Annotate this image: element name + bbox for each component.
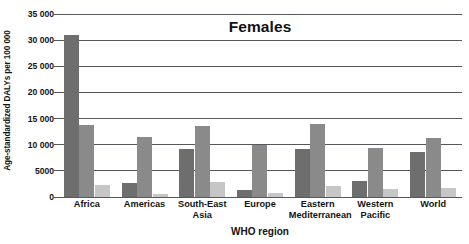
x-tick-label-line: Eastern xyxy=(289,199,347,210)
bar xyxy=(295,149,310,197)
chart-container: Age-standardized DALYs per 100 000 05000… xyxy=(0,0,469,244)
y-tick-label-25000: 25 000 xyxy=(28,61,54,71)
bar-group xyxy=(289,14,347,197)
bar xyxy=(195,126,210,197)
bar xyxy=(368,148,383,197)
bar xyxy=(137,137,152,197)
y-tick-label-0: 0 xyxy=(49,192,54,202)
y-tick-label-20000: 20 000 xyxy=(28,87,54,97)
y-axis-title-text: Age-standardized DALYs per 100 000 xyxy=(3,30,12,171)
x-tick-label-line: Western xyxy=(347,199,405,210)
bar-group xyxy=(404,14,462,197)
bar xyxy=(179,149,194,197)
bar xyxy=(210,182,225,197)
bar xyxy=(95,185,110,197)
bar xyxy=(79,125,94,197)
x-tick-label: South-EastAsia xyxy=(173,199,231,220)
x-tick-label: Africa xyxy=(58,199,116,210)
y-axis-title: Age-standardized DALYs per 100 000 xyxy=(0,0,14,200)
y-tick-label-15000: 15 000 xyxy=(28,114,54,124)
x-tick-label: WesternPacific xyxy=(347,199,405,220)
x-tick-label-line: Asia xyxy=(173,210,231,221)
bar xyxy=(252,145,267,197)
bar xyxy=(237,190,252,197)
x-tick-label-line: South-East xyxy=(173,199,231,210)
x-tick-label: Europe xyxy=(231,199,289,210)
bar-group xyxy=(58,14,116,197)
y-tick-label-30000: 30 000 xyxy=(28,35,54,45)
bar-group xyxy=(231,14,289,197)
x-tick-label: World xyxy=(404,199,462,210)
y-tick-label-5000: 5000 xyxy=(35,166,54,176)
bar xyxy=(410,152,425,197)
x-tick-label: Americas xyxy=(116,199,174,210)
bar-group xyxy=(347,14,405,197)
bar xyxy=(426,138,441,197)
bar-group xyxy=(116,14,174,197)
x-axis-title: WHO region xyxy=(58,226,462,237)
y-tick-label-10000: 10 000 xyxy=(28,140,54,150)
x-tick-label-line: World xyxy=(404,199,462,210)
x-tick-label-line: Europe xyxy=(231,199,289,210)
bar xyxy=(383,189,398,197)
bar xyxy=(64,35,79,197)
bars-layer xyxy=(58,14,462,197)
bar xyxy=(310,124,325,197)
bar xyxy=(153,194,168,197)
x-tick-label-line: Mediterranean xyxy=(289,210,347,221)
y-tick-label-35000: 35 000 xyxy=(28,9,54,19)
x-tick-label: EasternMediterranean xyxy=(289,199,347,220)
x-axis-tick-labels: AfricaAmericasSouth-EastAsiaEuropeEaster… xyxy=(58,199,462,229)
bar xyxy=(352,181,367,197)
plot-area: 0500010 00015 00020 00025 00030 00035 00… xyxy=(58,14,462,197)
bar xyxy=(326,186,341,197)
bar-group xyxy=(173,14,231,197)
bar xyxy=(441,188,456,197)
x-tick-label-line: Pacific xyxy=(347,210,405,221)
x-tick-label-line: Africa xyxy=(58,199,116,210)
bar xyxy=(268,193,283,197)
x-tick-label-line: Americas xyxy=(116,199,174,210)
chart-title: Females xyxy=(58,18,462,36)
bar xyxy=(122,183,137,197)
